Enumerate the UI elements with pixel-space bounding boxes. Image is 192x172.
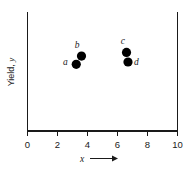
x-axis-tick-label: 0 — [25, 139, 30, 150]
data-point-markers — [72, 48, 133, 69]
x-axis-tick-label: 2 — [55, 139, 60, 150]
axis-spines — [27, 12, 178, 131]
data-point-label: c — [121, 36, 126, 46]
x-axis-tick-label: 6 — [115, 139, 120, 150]
x-axis-title: x — [79, 154, 118, 164]
x-axis-tick-label: 8 — [145, 139, 150, 150]
svg-text:Yield, y: Yield, y — [6, 58, 16, 87]
x-axis-tick-label: 4 — [85, 139, 90, 150]
y-axis-title: Yield, y — [6, 58, 16, 87]
scatter-chart-figure: 0246810 abcd Yield, y x — [0, 0, 192, 172]
data-point-label: d — [134, 57, 139, 67]
y-axis-title-prefix: Yield, — [6, 62, 16, 87]
x-axis-title-text: x — [79, 154, 85, 164]
plot-canvas: 0246810 abcd Yield, y x — [0, 0, 192, 172]
data-point-marker — [77, 51, 86, 60]
x-axis-arrow-head — [112, 156, 118, 162]
data-point-marker — [122, 48, 131, 57]
data-point-marker — [123, 57, 132, 66]
data-point-label: b — [75, 40, 80, 50]
x-axis-ticks — [28, 131, 178, 136]
data-point-label: a — [63, 57, 68, 67]
data-point-marker — [72, 60, 81, 69]
y-axis-title-symbol: y — [6, 58, 16, 63]
x-axis-tick-labels: 0246810 — [25, 139, 183, 150]
x-axis-tick-label: 10 — [172, 139, 183, 150]
